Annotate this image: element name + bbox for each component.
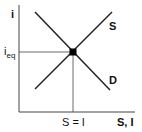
demand-label: D (109, 75, 117, 86)
diagram-canvas (0, 0, 142, 132)
eq-y-label-sub: eq (6, 51, 15, 60)
y-axis-label: i (11, 9, 14, 20)
eq-x-label: S = I (62, 117, 85, 128)
equilibrium-point (70, 49, 77, 56)
eq-y-label: ieq (4, 46, 15, 60)
supply-label: S (109, 21, 116, 32)
x-axis-label: S, I (117, 117, 134, 128)
